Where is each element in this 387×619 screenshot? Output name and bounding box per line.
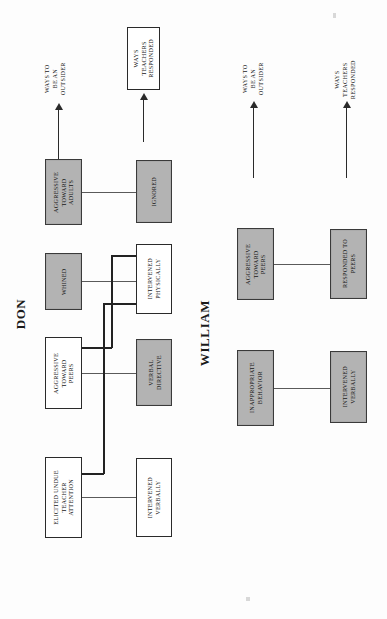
header-william-outsider: WAYS TOBE ANOUTSIDER bbox=[240, 24, 264, 134]
node-don-elicited-attention-label: ELICITED UNDUETEACHERATTENTION bbox=[52, 470, 75, 525]
person-title-william-text: WILLIAM bbox=[197, 300, 213, 366]
link-don-elicited-physical-seg1 bbox=[82, 473, 104, 475]
node-william-aggressive-peers-label: AGGRESSIVETOWARDPEERS bbox=[244, 243, 267, 284]
node-don-intervened-physically[interactable]: INTERVENEDPHYSICALLY bbox=[136, 244, 172, 314]
link-don-peers-verbaldirective bbox=[82, 373, 136, 374]
link-don-peers-physical-seg2 bbox=[111, 255, 113, 348]
node-don-aggressive-adults-label: AGGRESSIVETOWARDADULTS bbox=[52, 171, 75, 212]
node-william-responded-peers-label: RESPONDED TOPEERS bbox=[341, 239, 356, 288]
header-william-outsider-text: WAYS TOBE ANOUTSIDER bbox=[240, 62, 263, 95]
node-don-whined-label: WHINED bbox=[60, 268, 68, 295]
person-title-don-text: DON bbox=[13, 299, 29, 330]
link-don-whined-physical bbox=[82, 281, 136, 282]
scan-speck-bottom bbox=[246, 597, 250, 601]
header-william-teachers: WAYSTEACHERSRESPONDED bbox=[333, 26, 357, 134]
node-don-whined[interactable]: WHINED bbox=[45, 253, 82, 310]
link-don-peers-physical-seg1 bbox=[82, 347, 112, 349]
link-william-inappropriate-verbal bbox=[274, 388, 330, 389]
node-don-verbal-directive[interactable]: VERBALDIRECTIVE bbox=[136, 339, 172, 406]
node-don-elicited-attention[interactable]: ELICITED UNDUETEACHERATTENTION bbox=[45, 457, 82, 538]
link-don-elicited-verbal bbox=[82, 497, 136, 498]
header-don-outsider-text: WAYS TOBE ANOUTSIDER bbox=[42, 62, 65, 95]
link-william-peers-responded bbox=[274, 264, 330, 265]
node-don-aggressive-adults[interactable]: AGGRESSIVETOWARDADULTS bbox=[45, 159, 82, 225]
node-don-aggressive-peers[interactable]: AGGRESSIVETOWARDPEERS bbox=[45, 337, 82, 409]
header-don-teachers-box: WAYSTEACHERSRESPONDED bbox=[127, 27, 160, 90]
node-don-intervened-verbally-label: INTERVENEDVERBALLY bbox=[146, 477, 161, 518]
link-don-peers-physical-seg3 bbox=[111, 255, 136, 257]
node-william-intervened-verbally-label: INTERVENEDVERBALLY bbox=[341, 366, 356, 407]
person-title-don: DON bbox=[8, 286, 34, 342]
person-title-william: WILLIAM bbox=[190, 290, 220, 376]
header-don-outsider: WAYS TOBE ANOUTSIDER bbox=[42, 24, 66, 134]
node-don-verbal-directive-label: VERBALDIRECTIVE bbox=[146, 355, 161, 390]
node-don-intervened-physically-label: INTERVENEDPHYSICALLY bbox=[146, 258, 161, 299]
node-william-inappropriate-behavior-label: INAPPROPRIATEBEHAVIOR bbox=[248, 363, 263, 414]
node-william-intervened-verbally[interactable]: INTERVENEDVERBALLY bbox=[330, 351, 367, 423]
link-don-adults-ignored bbox=[82, 192, 136, 193]
node-don-ignored-label: IGNORED bbox=[150, 177, 158, 207]
node-william-responded-peers[interactable]: RESPONDED TOPEERS bbox=[330, 229, 367, 299]
header-william-teachers-text: WAYSTEACHERSRESPONDED bbox=[333, 60, 356, 99]
link-don-elicited-physical-seg3 bbox=[103, 303, 136, 305]
link-don-elicited-physical-seg2 bbox=[103, 303, 105, 474]
node-william-aggressive-peers[interactable]: AGGRESSIVETOWARDPEERS bbox=[237, 228, 274, 300]
scan-speck-top bbox=[333, 13, 336, 18]
node-don-aggressive-peers-label: AGGRESSIVETOWARDPEERS bbox=[52, 352, 75, 393]
diagram-canvas: DON WAYS TOBE ANOUTSIDER WAYSTEACHERSRES… bbox=[0, 0, 387, 619]
node-william-inappropriate-behavior[interactable]: INAPPROPRIATEBEHAVIOR bbox=[237, 350, 274, 426]
header-don-teachers-text: WAYSTEACHERSRESPONDED bbox=[132, 39, 155, 78]
node-don-intervened-verbally[interactable]: INTERVENEDVERBALLY bbox=[136, 458, 172, 537]
node-don-ignored[interactable]: IGNORED bbox=[136, 160, 172, 223]
